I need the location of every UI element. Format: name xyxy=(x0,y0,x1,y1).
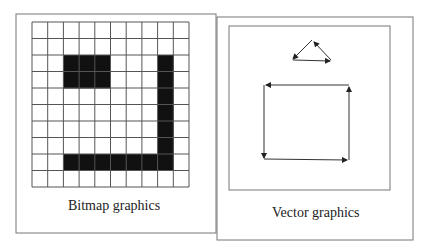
diagram-canvas xyxy=(0,0,429,248)
bitmap-pixel-filled xyxy=(158,88,174,105)
bitmap-pixel-filled xyxy=(142,154,158,171)
bitmap-pixel-filled xyxy=(79,72,95,89)
bitmap-pixel-filled xyxy=(79,55,95,72)
bitmap-pixel-filled xyxy=(158,138,174,155)
bitmap-pixel-filled xyxy=(158,105,174,122)
bitmap-caption: Bitmap graphics xyxy=(68,198,160,214)
bitmap-pixel-filled xyxy=(95,154,111,171)
vector-triangle xyxy=(293,40,331,61)
bitmap-pixel-filled xyxy=(95,72,111,89)
bitmap-pixel-filled xyxy=(95,55,111,72)
bitmap-pixel-filled xyxy=(63,154,79,171)
vector-square xyxy=(264,85,349,160)
bitmap-pixel-filled xyxy=(63,72,79,89)
bitmap-pixel-filled xyxy=(158,121,174,138)
vector-caption: Vector graphics xyxy=(272,205,359,221)
bitmap-pixel-filled xyxy=(126,154,142,171)
bitmap-grid xyxy=(32,22,189,187)
bitmap-pixel-filled xyxy=(63,55,79,72)
bitmap-pixel-filled xyxy=(158,55,174,72)
bitmap-pixel-filled xyxy=(158,72,174,89)
bitmap-pixel-filled xyxy=(158,154,174,171)
vector-canvas-box xyxy=(229,26,390,190)
bitmap-pixel-filled xyxy=(111,154,127,171)
bitmap-pixel-filled xyxy=(79,154,95,171)
